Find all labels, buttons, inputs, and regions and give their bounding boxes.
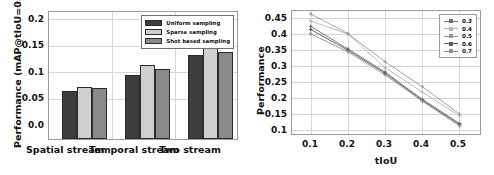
data-point-marker (309, 32, 313, 36)
line-ytick-0: 0.45 (259, 13, 287, 23)
legend-swatch-icon (145, 38, 162, 44)
bar-sparse-two (203, 48, 218, 139)
legend-item-0-4: 0.4 (444, 25, 472, 32)
legend-label: 0.3 (462, 18, 472, 24)
bar-shot-temporal (155, 69, 170, 139)
legend-line-icon (444, 18, 458, 25)
gridline (112, 12, 113, 139)
bar-ytick-1: 0.15 (14, 40, 44, 50)
legend-label: Sparse sampling (166, 29, 217, 35)
bar-ytick-2: 0.1 (14, 67, 44, 77)
bar-chart-legend: Uniform sampling Sparse sampling Shot ba… (141, 15, 234, 49)
line-ytick-6: 0.15 (259, 109, 287, 119)
data-point-marker (309, 28, 313, 32)
line-ytick-2: 0.35 (259, 45, 287, 55)
bar-uniform-temporal (125, 75, 140, 139)
legend-line-icon (444, 48, 458, 55)
bar-plot-area: Uniform sampling Sparse sampling Shot ba… (48, 11, 238, 140)
line-plot-area: 0.3 0.4 0.5 (291, 10, 481, 135)
bar-ytick-3: 0.05 (14, 93, 44, 103)
line-ytick-5: 0.2 (259, 93, 287, 103)
bar-ytick-0: 0.2 (14, 14, 44, 24)
bar-sparse-temporal (140, 65, 155, 139)
legend-line-icon (444, 25, 458, 32)
figure-root: Performance (mAP@tIoU=0.5) 0.2 0.15 0.1 … (0, 0, 494, 175)
data-point-marker (309, 12, 313, 16)
line-ytick-4: 0.25 (259, 77, 287, 87)
line-series-0-6 (311, 29, 460, 124)
line-series-0-7 (311, 34, 460, 126)
line-ytick-3: 0.3 (259, 61, 287, 71)
legend-label: 0.7 (462, 48, 472, 54)
legend-label: Shot based sampling (166, 38, 230, 44)
legend-item-shot-based-sampling: Shot based sampling (145, 37, 230, 45)
line-xtick-1: 0.2 (327, 139, 367, 149)
line-ytick-7: 0.1 (259, 125, 287, 135)
bar-xtick-two-stream: Two stream (155, 144, 225, 155)
bar-shot-two (218, 52, 233, 139)
bar-shot-spatial (92, 88, 107, 139)
line-chart-legend: 0.3 0.4 0.5 (439, 14, 477, 58)
bar-uniform-two (188, 55, 203, 140)
line-chart-xlabel: tIoU (346, 155, 426, 166)
legend-label: 0.5 (462, 33, 472, 39)
bar-sparse-spatial (77, 87, 92, 139)
bar-chart-panel: Performance (mAP@tIoU=0.5) 0.2 0.15 0.1 … (0, 0, 247, 175)
data-point-marker (309, 19, 313, 23)
bar-xtick-temporal-stream: Temporal stream (89, 144, 163, 155)
legend-item-0-5: 0.5 (444, 33, 472, 40)
legend-line-icon (444, 40, 458, 47)
legend-line-icon (444, 33, 458, 40)
legend-label: 0.4 (462, 26, 472, 32)
legend-swatch-icon (145, 29, 162, 35)
legend-label: Uniform sampling (166, 20, 220, 26)
legend-item-0-3: 0.3 (444, 18, 472, 25)
line-chart-panel: Performance 0.45 0.4 0.35 0.3 0.25 0.2 0… (247, 0, 494, 175)
legend-item-0-7: 0.7 (444, 48, 472, 55)
line-ytick-1: 0.4 (259, 29, 287, 39)
legend-label: 0.6 (462, 41, 472, 47)
line-xtick-0: 0.1 (290, 139, 330, 149)
legend-item-uniform-sampling: Uniform sampling (145, 19, 230, 27)
bar-ytick-4: 0.0 (14, 120, 44, 130)
line-xtick-4: 0.5 (438, 139, 478, 149)
legend-swatch-icon (145, 20, 162, 26)
line-xtick-2: 0.3 (364, 139, 404, 149)
bar-uniform-spatial (62, 91, 77, 139)
legend-item-0-6: 0.6 (444, 40, 472, 47)
line-xtick-3: 0.4 (401, 139, 441, 149)
legend-item-sparse-sampling: Sparse sampling (145, 28, 230, 36)
